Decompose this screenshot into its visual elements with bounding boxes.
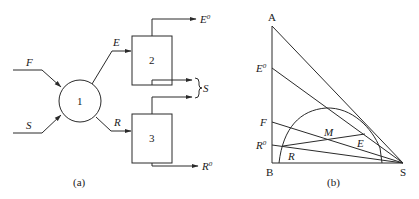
mixer-node-label: 1	[77, 95, 83, 107]
r0-point-label: R0	[255, 139, 267, 151]
raffinate-label: R	[113, 116, 121, 128]
vertex-b-label: B	[266, 166, 273, 178]
f-point-label: F	[259, 116, 267, 128]
unit-2-label: 2	[149, 54, 155, 66]
solvent-in-stream-line	[13, 115, 61, 133]
extract-stream-line	[92, 51, 131, 84]
figure-a-caption: (a)	[73, 176, 86, 189]
solvent-from-unit-3-line	[152, 97, 192, 114]
vertex-a-label: A	[268, 11, 276, 23]
extract-product-line	[152, 19, 196, 36]
raffinate-product-label: R0	[201, 160, 213, 172]
brace-icon	[195, 78, 202, 98]
e0-point-label: E0	[255, 62, 267, 74]
solvent-in-label: S	[26, 119, 32, 131]
extract-point-label: E	[356, 137, 364, 149]
mixture-point-label: M	[323, 126, 334, 138]
diagram-canvas: F S 1 E 2 E0 3 S R R0 (a)	[0, 0, 419, 199]
feed-label: F	[25, 56, 33, 68]
extract-label: E	[112, 36, 120, 48]
figure-a: F S 1 E 2 E0 3 S R R0 (a)	[13, 13, 213, 189]
figure-b: A B S E0 F R0 M E R (b)	[255, 11, 406, 189]
figure-b-caption: (b)	[327, 176, 340, 189]
line-e0-s	[272, 68, 403, 163]
feed-stream-line	[13, 70, 61, 87]
extract-product-label: E0	[199, 13, 211, 25]
raffinate-point-label: R	[287, 150, 295, 162]
unit-3-label: 3	[149, 132, 155, 144]
solvent-recovered-label: S	[203, 82, 209, 94]
vertex-s-label: S	[400, 166, 406, 178]
